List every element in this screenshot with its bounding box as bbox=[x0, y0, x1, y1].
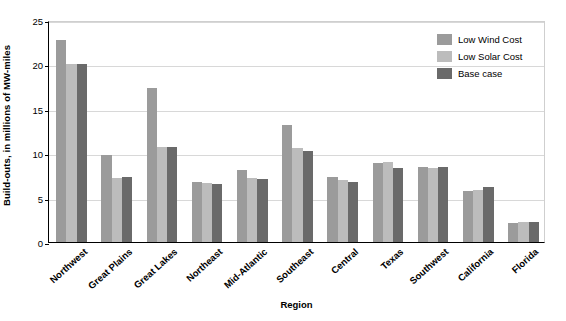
x-axis-tick-label: Great Plains bbox=[86, 246, 135, 291]
bar bbox=[383, 162, 393, 242]
bar bbox=[112, 178, 122, 242]
bar-group bbox=[56, 22, 87, 242]
bar bbox=[237, 170, 247, 242]
x-axis-tick-label: California bbox=[456, 246, 496, 283]
bar bbox=[147, 88, 157, 242]
bar-chart: Build-outs, in millions of MW-miles 0510… bbox=[0, 0, 566, 321]
x-axis-title-text: Region bbox=[280, 299, 312, 310]
x-axis-tick-labels: NorthwestGreat PlainsGreat LakesNortheas… bbox=[48, 243, 545, 303]
x-axis-title: Region bbox=[48, 299, 545, 310]
legend-item: Low Solar Cost bbox=[437, 49, 522, 64]
x-axis-tick-label: Great Lakes bbox=[132, 246, 180, 291]
bar-group bbox=[101, 22, 132, 242]
x-axis-tick-label: Northwest bbox=[47, 246, 89, 285]
bar bbox=[101, 155, 111, 242]
bar bbox=[529, 222, 539, 242]
bar bbox=[428, 168, 438, 242]
x-axis-tick-label: Texas bbox=[378, 246, 405, 272]
bar bbox=[157, 147, 167, 242]
x-axis-tick-label: Southeast bbox=[273, 246, 314, 285]
bar bbox=[122, 177, 132, 242]
bar bbox=[77, 64, 87, 242]
y-axis-tick-label: 10 bbox=[32, 149, 43, 160]
bar-group bbox=[147, 22, 178, 242]
bar bbox=[192, 182, 202, 242]
legend-item-label: Base case bbox=[458, 68, 502, 79]
bar bbox=[56, 40, 66, 242]
bar bbox=[393, 168, 403, 242]
bar bbox=[483, 187, 493, 242]
y-axis-tick-label: 15 bbox=[32, 104, 43, 115]
legend-color-swatch bbox=[437, 51, 452, 62]
bar bbox=[247, 178, 257, 242]
bar bbox=[202, 183, 212, 242]
y-axis-tick-label: 0 bbox=[38, 238, 43, 249]
y-axis-title-text: Build-outs, in millions of MW-miles bbox=[2, 44, 13, 205]
bar bbox=[373, 163, 383, 242]
bar-group bbox=[373, 22, 404, 242]
bar bbox=[418, 167, 428, 242]
bar bbox=[257, 179, 267, 242]
x-axis-tick-label: Central bbox=[328, 246, 360, 276]
y-axis-tick-label: 25 bbox=[32, 16, 43, 27]
bar bbox=[338, 180, 348, 242]
bar bbox=[518, 222, 528, 242]
legend-color-swatch bbox=[437, 34, 452, 45]
legend-item: Base case bbox=[437, 66, 522, 81]
bar bbox=[327, 177, 337, 242]
bar bbox=[212, 184, 222, 242]
y-axis-tick-label: 20 bbox=[32, 60, 43, 71]
x-axis-tick-label: Florida bbox=[510, 246, 541, 275]
bar bbox=[473, 190, 483, 242]
legend-item: Low Wind Cost bbox=[437, 32, 522, 47]
legend-item-label: Low Solar Cost bbox=[458, 51, 522, 62]
y-axis-tick-labels: 0510152025 bbox=[14, 0, 47, 250]
bar bbox=[66, 64, 76, 242]
bar bbox=[303, 151, 313, 242]
legend-color-swatch bbox=[437, 68, 452, 79]
bar bbox=[463, 191, 473, 242]
bar bbox=[282, 125, 292, 242]
bar-group bbox=[237, 22, 268, 242]
bar bbox=[508, 223, 518, 242]
legend: Low Wind CostLow Solar CostBase case bbox=[437, 32, 522, 83]
bar-group bbox=[192, 22, 223, 242]
bar bbox=[167, 147, 177, 242]
bar bbox=[348, 182, 358, 242]
bar-group bbox=[327, 22, 358, 242]
x-axis-tick-label: Northeast bbox=[184, 246, 224, 284]
x-axis-tick-label: Mid-Atlantic bbox=[222, 246, 270, 291]
bar-group bbox=[282, 22, 313, 242]
bar bbox=[438, 167, 448, 242]
legend-item-label: Low Wind Cost bbox=[458, 34, 522, 45]
y-axis-title: Build-outs, in millions of MW-miles bbox=[0, 0, 14, 250]
x-axis-tick-label: Southwest bbox=[407, 246, 450, 286]
bar bbox=[292, 148, 302, 242]
y-axis-tick-label: 5 bbox=[38, 193, 43, 204]
